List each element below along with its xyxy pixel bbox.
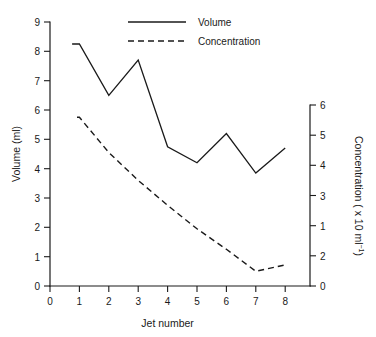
right-ytick-2: 2	[320, 251, 326, 262]
right-ytick-1: 1	[320, 221, 326, 232]
x-axis-ticks: 0 1 2 3 4 5 6 7 8	[47, 286, 288, 307]
right-ytick-6: 6	[320, 100, 326, 111]
left-ytick-2: 2	[34, 222, 40, 233]
xtick-7: 7	[253, 296, 259, 307]
left-y-axis-title: Volume (ml)	[10, 126, 22, 182]
xtick-6: 6	[224, 296, 230, 307]
series-line-concentration	[77, 117, 285, 271]
right-y-axis-title-tail: )	[353, 253, 365, 257]
right-y-axis-title: Concentration ( x 10 ml−1)	[353, 136, 365, 256]
xtick-0: 0	[47, 296, 53, 307]
xtick-2: 2	[106, 296, 112, 307]
xtick-3: 3	[135, 296, 141, 307]
legend-label-volume: Volume	[198, 17, 232, 28]
xtick-5: 5	[194, 296, 200, 307]
chart-legend: Volume Concentration	[128, 17, 260, 47]
right-ytick-4: 4	[320, 160, 326, 171]
chart-figure: 9 8 7 6 5 4 3 2 1 0 6 5 4 3 1 2 0	[0, 0, 376, 337]
right-y-axis-title-main: Concentration ( x 10 ml	[353, 136, 365, 245]
left-ytick-7: 7	[34, 76, 40, 87]
left-ytick-6: 6	[34, 105, 40, 116]
right-ytick-5: 5	[320, 130, 326, 141]
legend-entry-volume: Volume	[128, 17, 232, 28]
right-y-axis-title-superscript: −1	[358, 245, 365, 253]
left-axis-ticks: 9 8 7 6 5 4 3 2 1 0	[34, 17, 50, 292]
xtick-4: 4	[165, 296, 171, 307]
right-ytick-0: 0	[320, 281, 326, 292]
dual-axis-line-chart: 9 8 7 6 5 4 3 2 1 0 6 5 4 3 1 2 0	[0, 0, 376, 337]
left-ytick-0: 0	[34, 281, 40, 292]
left-ytick-4: 4	[34, 164, 40, 175]
right-axis-ticks: 6 5 4 3 1 2 0	[310, 100, 326, 292]
left-ytick-8: 8	[34, 46, 40, 57]
left-ytick-1: 1	[34, 252, 40, 263]
legend-label-concentration: Concentration	[198, 36, 260, 47]
left-ytick-5: 5	[34, 134, 40, 145]
left-ytick-3: 3	[34, 193, 40, 204]
xtick-1: 1	[77, 296, 83, 307]
legend-entry-concentration: Concentration	[128, 36, 260, 47]
right-ytick-3: 3	[320, 191, 326, 202]
left-ytick-9: 9	[34, 17, 40, 28]
series-line-volume	[72, 44, 285, 173]
xtick-8: 8	[282, 296, 288, 307]
x-axis-title: Jet number	[141, 317, 194, 329]
